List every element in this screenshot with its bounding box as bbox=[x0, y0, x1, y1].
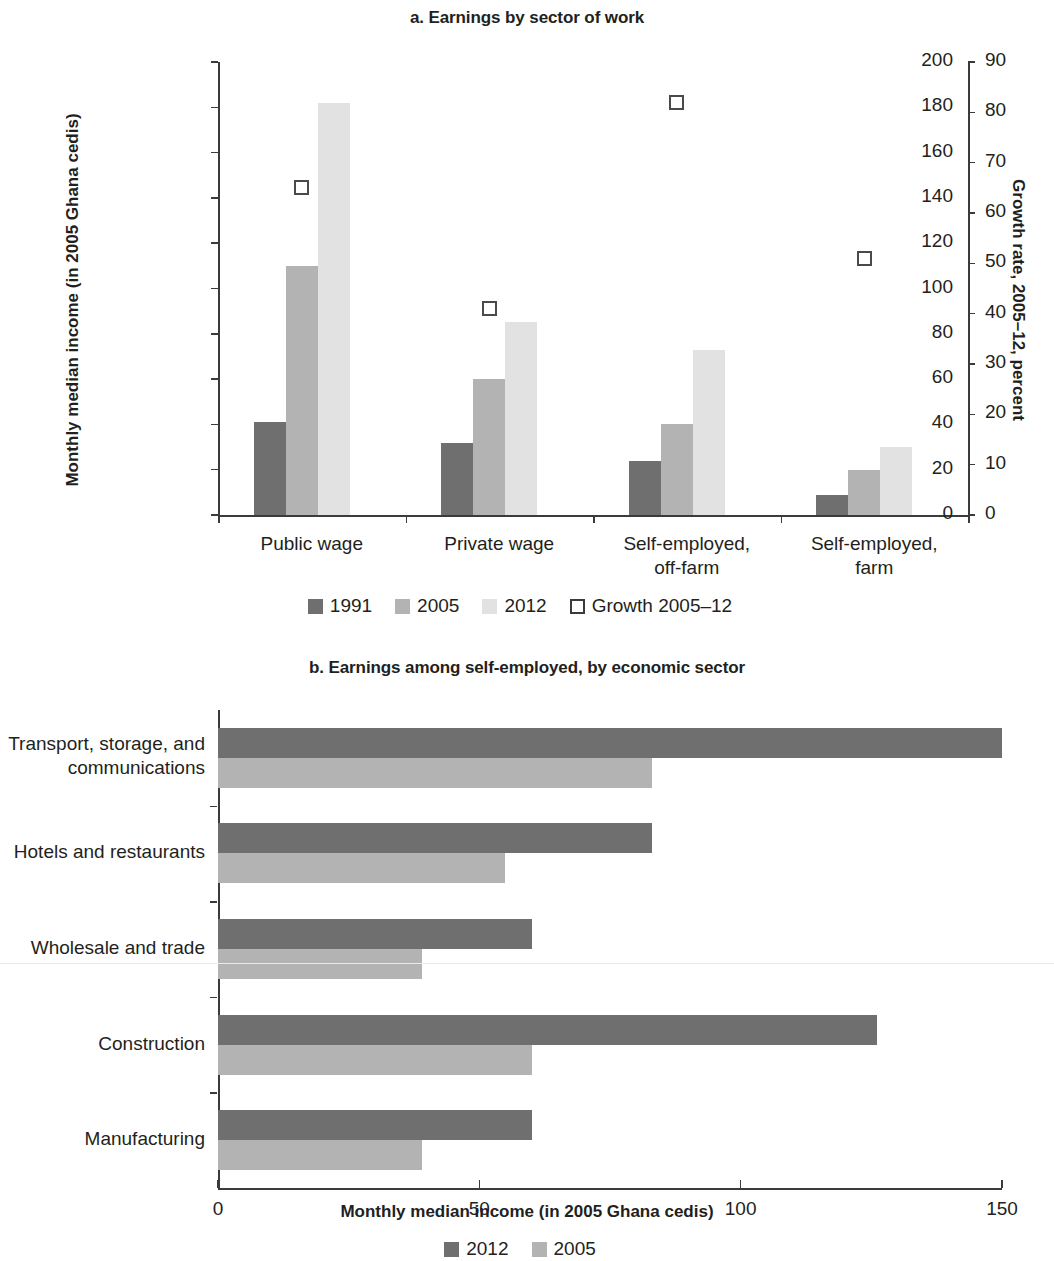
panel-b-category-label: Hotels and restaurants bbox=[0, 840, 205, 864]
panel-a-left-tick-label: 180 bbox=[893, 94, 953, 116]
panel-a-category-label: Self-employed, farm bbox=[781, 532, 969, 580]
panel-b-bar bbox=[218, 823, 652, 853]
panel-a-bar bbox=[693, 350, 725, 515]
legend-item[interactable]: 2012 bbox=[444, 1238, 508, 1260]
legend-swatch bbox=[444, 1242, 459, 1257]
panel-b-category-label: Transport, storage, and communications bbox=[0, 732, 205, 780]
panel-a-category-label: Self-employed, off-farm bbox=[593, 532, 781, 580]
panel-a-bar bbox=[816, 495, 848, 515]
panel-a-right-tick-label: 50 bbox=[985, 250, 1006, 272]
panel-a-bar bbox=[473, 379, 505, 515]
legend-item[interactable]: 2005 bbox=[532, 1238, 596, 1260]
panel-b-category-label: Construction bbox=[0, 1032, 205, 1056]
growth-marker bbox=[669, 95, 684, 110]
panel-b-plot-area: Transport, storage, and communicationsHo… bbox=[218, 710, 1002, 1190]
panel-b-category-label: Wholesale and trade bbox=[0, 936, 205, 960]
legend-label: 2005 bbox=[554, 1238, 596, 1260]
panel-b-bar bbox=[218, 919, 532, 949]
tick-mark bbox=[211, 197, 218, 199]
tick-mark bbox=[968, 363, 975, 365]
panel-b-baseline bbox=[218, 1188, 1002, 1190]
panel-a-bar bbox=[629, 461, 661, 515]
tick-mark bbox=[968, 162, 975, 164]
tick-mark bbox=[211, 469, 218, 471]
panel-a-left-tick-label: 160 bbox=[893, 140, 953, 162]
tick-mark bbox=[968, 263, 975, 265]
legend-swatch bbox=[532, 1242, 547, 1257]
panel-a-bar bbox=[505, 322, 537, 515]
panel-b-bar bbox=[218, 1045, 532, 1075]
legend-item[interactable]: 2005 bbox=[395, 595, 459, 617]
panel-a-left-tick-label: 60 bbox=[893, 366, 953, 388]
panel-a-right-tick-label: 0 bbox=[985, 502, 996, 524]
panel-a-right-tick-label: 90 bbox=[985, 49, 1006, 71]
tick-mark bbox=[211, 152, 218, 154]
panel-a-bar bbox=[441, 443, 473, 515]
figure-root: a. Earnings by sector of work Monthly me… bbox=[0, 0, 1054, 1261]
panel-a-left-tick-label: 120 bbox=[893, 230, 953, 252]
panel-b-bar bbox=[218, 1140, 422, 1170]
legend-swatch bbox=[308, 599, 323, 614]
tick-mark bbox=[968, 212, 975, 214]
panel-b-row-separator-tick bbox=[210, 1092, 217, 1094]
legend-item[interactable]: Growth 2005–12 bbox=[570, 595, 733, 617]
panel-b-bar bbox=[218, 1110, 532, 1140]
category-separator-tick bbox=[406, 515, 408, 523]
panel-b-row-separator-tick bbox=[210, 901, 217, 903]
panel-a-left-tick-label: 140 bbox=[893, 185, 953, 207]
tick-mark bbox=[968, 61, 975, 63]
panel-b-x-axis-title: Monthly median income (in 2005 Ghana ced… bbox=[0, 1202, 1054, 1222]
tick-mark bbox=[740, 1180, 742, 1188]
panel-b-legend: 20122005 bbox=[0, 1238, 1054, 1260]
panel-b-bar bbox=[218, 728, 1002, 758]
tick-mark bbox=[217, 1180, 219, 1188]
panel-a-plot-area: 020406080100120140160180200 010203040506… bbox=[218, 62, 970, 517]
panel-a-category-label: Private wage bbox=[406, 532, 594, 556]
panel-a-left-axis bbox=[218, 62, 220, 517]
tick-mark bbox=[211, 424, 218, 426]
tick-mark bbox=[211, 61, 218, 63]
tick-mark bbox=[211, 242, 218, 244]
tick-mark bbox=[1001, 1180, 1003, 1188]
panel-b-bar bbox=[218, 853, 505, 883]
panel-a-left-tick-label: 40 bbox=[893, 411, 953, 433]
panel-a-bar bbox=[661, 424, 693, 515]
category-separator-tick bbox=[968, 515, 970, 523]
legend-item[interactable]: 2012 bbox=[482, 595, 546, 617]
tick-mark bbox=[211, 107, 218, 109]
panel-a-title: a. Earnings by sector of work bbox=[0, 8, 1054, 28]
category-separator-tick bbox=[218, 515, 220, 523]
panel-a-category-label: Public wage bbox=[218, 532, 406, 556]
legend-label: 2012 bbox=[504, 595, 546, 617]
legend-label: Growth 2005–12 bbox=[592, 595, 733, 617]
panel-a-bar bbox=[880, 447, 912, 515]
tick-mark bbox=[968, 112, 975, 114]
category-separator-tick bbox=[781, 515, 783, 523]
panel-a: a. Earnings by sector of work Monthly me… bbox=[0, 0, 1054, 640]
panel-b-row-separator-tick bbox=[210, 997, 217, 999]
legend-label: 1991 bbox=[330, 595, 372, 617]
panel-a-right-tick-label: 10 bbox=[985, 452, 1006, 474]
tick-mark bbox=[211, 333, 218, 335]
tick-mark bbox=[968, 414, 975, 416]
scan-artifact-line bbox=[0, 963, 1054, 964]
panel-a-right-tick-label: 60 bbox=[985, 200, 1006, 222]
panel-b: b. Earnings among self-employed, by econ… bbox=[0, 650, 1054, 1261]
panel-b-bar bbox=[218, 1015, 877, 1045]
tick-mark bbox=[211, 378, 218, 380]
tick-mark bbox=[211, 288, 218, 290]
panel-b-category-label: Manufacturing bbox=[0, 1127, 205, 1151]
panel-a-bar bbox=[848, 470, 880, 515]
legend-swatch bbox=[395, 599, 410, 614]
panel-a-bar bbox=[286, 266, 318, 515]
panel-b-bar bbox=[218, 949, 422, 979]
panel-b-bar bbox=[218, 758, 652, 788]
panel-a-bar bbox=[318, 103, 350, 515]
panel-a-left-tick-label: 80 bbox=[893, 321, 953, 343]
panel-a-right-axis bbox=[968, 62, 970, 517]
panel-a-left-tick-label: 200 bbox=[893, 49, 953, 71]
legend-item[interactable]: 1991 bbox=[308, 595, 372, 617]
panel-a-right-tick-label: 20 bbox=[985, 401, 1006, 423]
panel-b-title: b. Earnings among self-employed, by econ… bbox=[0, 658, 1054, 678]
panel-a-bar bbox=[254, 422, 286, 515]
